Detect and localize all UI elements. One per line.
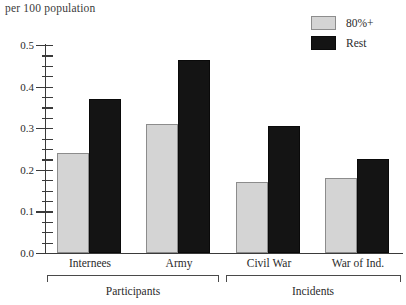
y-axis-major-tick <box>36 253 53 254</box>
chart-axis-title: per 100 population <box>5 2 95 14</box>
category-label-war-of-ind: War of Ind. <box>332 257 384 269</box>
category-labels: Internees Army Civil War War of Ind. <box>45 257 403 273</box>
y-axis-major-tick <box>36 128 53 129</box>
y-axis-minor-tick <box>42 149 53 150</box>
light-gray-swatch-icon <box>311 16 336 30</box>
y-axis-minor-tick <box>42 222 53 223</box>
y-tick-label-0.1: 0.1 <box>20 205 34 217</box>
bar-internees-80- <box>57 153 89 253</box>
y-axis-major-tick <box>36 211 53 212</box>
y-axis-minor-tick <box>42 201 53 202</box>
y-axis-minor-tick <box>42 139 53 140</box>
y-tick-label-0.5: 0.5 <box>20 39 34 51</box>
y-axis-minor-tick <box>42 191 53 192</box>
y-axis-minor-tick <box>42 107 53 108</box>
group-label-participants: Participants <box>106 285 160 297</box>
category-label-civil-war: Civil War <box>247 257 292 269</box>
plot-area <box>45 45 403 253</box>
y-tick-label-0.4: 0.4 <box>20 81 34 93</box>
bar-war-of-ind--80- <box>325 178 357 253</box>
y-tick-label-0.0: 0.0 <box>20 247 34 259</box>
y-axis-minor-tick <box>42 180 53 181</box>
legend-item-80-plus: 80%+ <box>311 14 406 31</box>
bar-army-rest <box>178 60 210 253</box>
group-labels: Participants Incidents <box>45 285 403 303</box>
y-axis-minor-tick <box>42 97 53 98</box>
y-axis-major-tick <box>36 170 53 171</box>
y-axis-minor-tick <box>42 243 53 244</box>
y-axis-minor-tick <box>42 232 53 233</box>
category-label-internees: Internees <box>69 257 111 269</box>
y-tick-label-0.2: 0.2 <box>20 164 34 176</box>
bar-army-80- <box>146 124 178 253</box>
bar-civil-war-80- <box>236 182 268 253</box>
y-axis-minor-tick <box>42 66 53 67</box>
group-label-incidents: Incidents <box>292 285 334 297</box>
y-axis-minor-tick <box>42 159 53 160</box>
bar-civil-war-rest <box>268 126 300 253</box>
bracket-incidents <box>226 275 401 282</box>
y-axis-minor-tick <box>42 118 53 119</box>
y-axis-major-tick <box>36 87 53 88</box>
category-label-army: Army <box>166 257 193 269</box>
bar-war-of-ind--rest <box>357 159 389 253</box>
y-tick-label-0.3: 0.3 <box>20 122 34 134</box>
y-axis-minor-tick <box>42 76 53 77</box>
bar-internees-rest <box>89 99 121 253</box>
legend-label-80-plus: 80%+ <box>346 17 374 29</box>
y-axis-major-tick <box>36 45 53 46</box>
bracket-participants <box>47 275 219 282</box>
y-axis-tick-labels: 0.5 0.4 0.3 0.2 0.1 0.0 <box>0 45 34 253</box>
bar-chart-figure: per 100 population 80%+ Rest 0.5 0.4 0.3… <box>0 0 406 305</box>
y-axis-minor-tick <box>42 55 53 56</box>
